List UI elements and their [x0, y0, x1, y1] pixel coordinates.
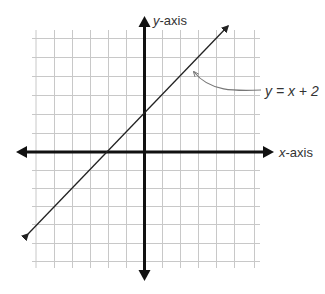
y-axis-down-arrow-icon	[139, 270, 151, 281]
callout-arrow-icon	[194, 72, 261, 90]
y-axis-up-arrow-icon	[139, 16, 151, 27]
y-axis-label: y-axis	[152, 13, 187, 28]
x-axis-right-arrow-icon	[263, 146, 274, 158]
y-axis	[139, 16, 151, 281]
x-axis-label: x-axis	[278, 145, 313, 160]
x-axis-left-arrow-icon	[16, 146, 27, 158]
coordinate-plane: y-axis x-axis y = x + 2	[0, 0, 325, 294]
equation-label: y = x + 2	[264, 83, 319, 99]
